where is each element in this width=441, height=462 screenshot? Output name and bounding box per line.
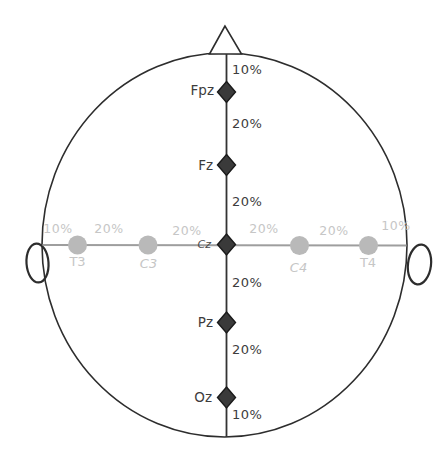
- lateral-percent-label-cz-c4: 20%: [249, 221, 278, 236]
- electrode-fpz-label: Fpz: [191, 82, 214, 98]
- lateral-percent-label-t3-c3: 20%: [94, 221, 123, 236]
- head-diagram-svg: Fpz Fz Cz Pz Oz T3 C3 C4 T4 10% 20% 20% …: [0, 0, 441, 462]
- midline-percent-label-fpz-fz: 20%: [232, 116, 262, 131]
- midline-percent-label-nose-fpz: 10%: [232, 62, 262, 77]
- electrode-c4-label: C4: [290, 260, 307, 275]
- electrode-t4-marker: [359, 236, 378, 255]
- midline-percent-label-fz-cz: 20%: [232, 194, 262, 209]
- lateral-percent-label-t4-ear: 10%: [381, 218, 410, 233]
- electrode-c4-marker: [290, 236, 309, 255]
- electrode-t4-label: T4: [359, 255, 376, 270]
- electrode-t3-marker: [68, 236, 87, 255]
- electrode-c3-marker: [139, 236, 158, 255]
- nose-icon: [210, 26, 242, 54]
- electrode-t3-label: T3: [68, 254, 85, 269]
- electrode-fz-label: Fz: [198, 157, 213, 173]
- electrode-pz-label: Pz: [198, 314, 213, 330]
- lateral-percent-label-ear-t3: 10%: [43, 221, 72, 236]
- midline-percent-label-cz-pz: 20%: [232, 275, 262, 290]
- electrode-oz-label: Oz: [194, 389, 212, 405]
- midline-percent-label-oz-inion: 10%: [232, 407, 262, 422]
- eeg-10-20-diagram: Fpz Fz Cz Pz Oz T3 C3 C4 T4 10% 20% 20% …: [0, 0, 441, 462]
- right-ear-icon: [406, 243, 434, 286]
- electrode-cz-label: Cz: [198, 238, 212, 251]
- midline-percent-label-pz-oz: 20%: [232, 342, 262, 357]
- electrode-c3-label: C3: [140, 256, 157, 271]
- lateral-percent-label-c4-t4: 20%: [319, 223, 348, 238]
- lateral-percent-label-c3-cz: 20%: [172, 223, 201, 238]
